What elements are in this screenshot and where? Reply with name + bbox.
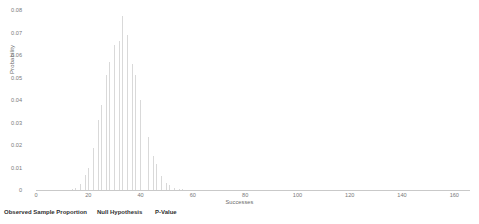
histogram-chart: Probability 00.010.020.030.040.050.060.0… xyxy=(0,0,479,205)
y-tick-label: 0.03 xyxy=(0,120,22,126)
x-tick-label: 60 xyxy=(190,192,196,198)
y-tick-label: 0.01 xyxy=(0,165,22,171)
x-axis-tick-labels: Successes 020406080100120140160 xyxy=(0,190,479,202)
x-tick-label: 80 xyxy=(242,192,248,198)
chart-screenshot: Probability 00.010.020.030.040.050.060.0… xyxy=(0,0,479,224)
footer-controls-row: Observed Sample ProportionNull Hypothesi… xyxy=(0,205,479,224)
footer-label-0[interactable]: Observed Sample Proportion xyxy=(4,209,87,215)
y-axis-tick-labels: 00.010.020.030.040.050.060.070.08 xyxy=(0,0,22,205)
plot-area xyxy=(36,10,470,190)
y-tick-label: 0.08 xyxy=(0,7,22,13)
x-tick-label: 120 xyxy=(345,192,354,198)
x-tick-label: 160 xyxy=(450,192,459,198)
y-tick-label: 0.07 xyxy=(0,30,22,36)
y-tick-label: 0.02 xyxy=(0,142,22,148)
x-tick-label: 20 xyxy=(85,192,91,198)
x-tick-label: 140 xyxy=(397,192,406,198)
y-tick-label: 0.06 xyxy=(0,52,22,58)
x-tick-label: 0 xyxy=(34,192,37,198)
x-tick-label: 100 xyxy=(293,192,302,198)
x-tick-label: 40 xyxy=(137,192,143,198)
y-tick-label: 0.05 xyxy=(0,75,22,81)
y-tick-label: 0.04 xyxy=(0,97,22,103)
footer-label-1[interactable]: Null Hypothesis xyxy=(97,209,142,215)
footer-label-2[interactable]: P-Value xyxy=(155,209,177,215)
